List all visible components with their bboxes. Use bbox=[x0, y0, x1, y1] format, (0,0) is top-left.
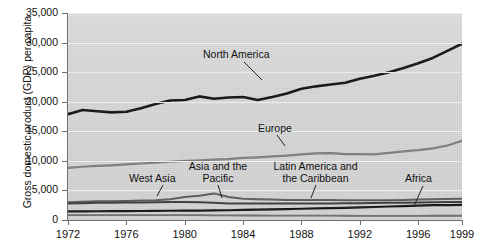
chart-figure: Gross domestic product (GDP) per capita … bbox=[0, 0, 479, 251]
leader-lines bbox=[0, 0, 479, 251]
